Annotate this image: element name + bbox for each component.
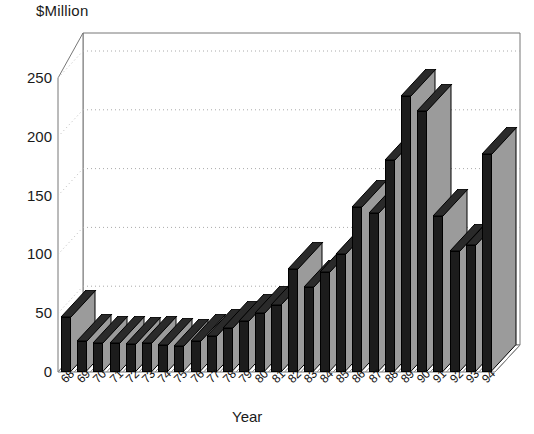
- x-tick-label-94: 94: [479, 367, 498, 386]
- x-axis-title: Year: [232, 408, 262, 425]
- x-tick-label-75: 75: [171, 367, 190, 386]
- chart-canvas: $Million 050100150200250 686970717273747…: [0, 0, 534, 434]
- x-tick-label-80: 80: [252, 367, 271, 386]
- x-tick-label-91: 91: [430, 367, 449, 386]
- x-axis-tick-labels: 6869707172737475767778798081828384858687…: [0, 0, 534, 434]
